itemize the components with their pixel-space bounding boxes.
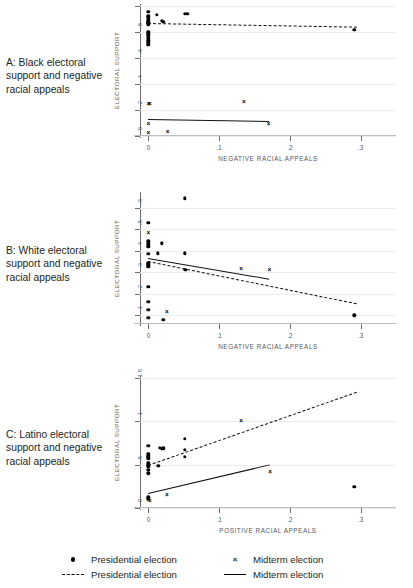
legend-item-midterm-line: Midterm election bbox=[222, 567, 323, 582]
data-point-presidential bbox=[353, 28, 356, 31]
data-point-presidential bbox=[157, 464, 160, 467]
x-axis-tick bbox=[148, 136, 149, 141]
y-axis-tick bbox=[135, 378, 140, 379]
data-point-presidential bbox=[183, 197, 186, 200]
data-point-midterm: × bbox=[268, 267, 272, 273]
y-axis-tick bbox=[135, 229, 140, 230]
panel-a-x-axis-label: NEGATIVE RACIAL APPEALS bbox=[140, 155, 396, 162]
legend-label: Presidential election bbox=[91, 569, 177, 580]
x-marker-icon: × bbox=[222, 556, 248, 564]
data-point-midterm: × bbox=[267, 121, 271, 127]
legend-label: Midterm election bbox=[253, 569, 323, 580]
gridline bbox=[140, 32, 396, 33]
trend-line-presidential bbox=[148, 391, 357, 465]
x-axis-tick-label: .2 bbox=[287, 144, 292, 151]
panel-b: B: White electoral support and negative … bbox=[0, 188, 413, 374]
panel-b-caption: B: White electoral support and negative … bbox=[6, 244, 110, 284]
x-axis-tick-label: 0 bbox=[147, 332, 151, 339]
data-point-midterm: × bbox=[165, 308, 169, 314]
y-axis-tick-label: .4 bbox=[137, 242, 143, 247]
panel-c-plot-area: ELECTORAL SUPPORT POSITIVE RACIAL APPEAL… bbox=[112, 376, 408, 536]
y-axis-tick-label: .8 bbox=[137, 23, 143, 28]
trend-line-midterm bbox=[148, 258, 269, 280]
x-axis-tick bbox=[361, 508, 362, 513]
gridline bbox=[140, 229, 396, 230]
y-axis-tick bbox=[135, 294, 140, 295]
x-axis-tick bbox=[219, 508, 220, 513]
trend-line-presidential bbox=[148, 261, 357, 304]
data-point-presidential bbox=[156, 252, 159, 255]
y-axis-tick-label: 0 bbox=[137, 127, 143, 130]
gridline bbox=[140, 110, 396, 111]
panel-c-y-axis-label: ELECTORAL SUPPORT bbox=[110, 376, 122, 508]
y-axis-tick bbox=[135, 58, 140, 59]
legend-item-presidential-line: Presidential election bbox=[60, 567, 177, 582]
y-axis-tick-label: .3 bbox=[137, 263, 143, 268]
y-axis-tick bbox=[135, 110, 140, 111]
y-axis-tick bbox=[135, 315, 140, 316]
x-axis-tick bbox=[290, 508, 291, 513]
y-axis-tick-label: .6 bbox=[137, 49, 143, 54]
data-point-presidential bbox=[183, 437, 186, 440]
legend-label: Presidential election bbox=[91, 554, 177, 565]
panel-b-plot-area: ELECTORAL SUPPORT NEGATIVE RACIAL APPEAL… bbox=[112, 192, 408, 352]
panel-b-x-axis-label: NEGATIVE RACIAL APPEALS bbox=[140, 343, 396, 350]
x-axis-tick-label: .2 bbox=[287, 332, 292, 339]
data-point-presidential bbox=[147, 245, 150, 248]
data-point-presidential bbox=[147, 444, 150, 447]
gridline bbox=[140, 378, 396, 379]
data-point-presidential bbox=[147, 10, 150, 13]
y-axis-tick bbox=[135, 508, 140, 509]
data-point-presidential bbox=[160, 242, 163, 245]
x-axis-tick-label: .1 bbox=[217, 144, 222, 151]
gridline bbox=[140, 294, 396, 295]
legend-column-left: Presidential election Presidential elect… bbox=[60, 552, 177, 582]
gridline bbox=[140, 58, 396, 59]
data-point-midterm: × bbox=[147, 262, 151, 268]
data-point-presidential bbox=[183, 455, 186, 458]
data-point-presidential bbox=[147, 308, 150, 311]
data-point-midterm: × bbox=[148, 101, 152, 107]
x-axis-tick bbox=[148, 324, 149, 329]
panel-c-y-axis-line bbox=[140, 376, 141, 510]
data-point-midterm: × bbox=[165, 492, 169, 498]
gridline bbox=[140, 6, 396, 7]
x-axis-tick bbox=[219, 324, 220, 329]
x-axis-tick bbox=[361, 136, 362, 141]
figure-racial-appeals: A: Black electoral support and negative … bbox=[0, 0, 413, 588]
y-axis-tick bbox=[135, 465, 140, 466]
y-axis-tick-label: .5 bbox=[137, 220, 143, 225]
x-axis-tick-label: .3 bbox=[358, 516, 363, 523]
figure-legend: Presidential election Presidential elect… bbox=[0, 552, 413, 588]
panel-a-plot-area: ELECTORAL SUPPORT NEGATIVE RACIAL APPEAL… bbox=[112, 4, 408, 164]
data-point-presidential bbox=[147, 221, 150, 224]
y-axis-tick-label: 1.5 bbox=[137, 369, 143, 377]
data-point-midterm: × bbox=[166, 129, 170, 135]
y-axis-tick bbox=[135, 6, 140, 7]
data-point-midterm: × bbox=[148, 497, 152, 503]
y-axis-tick bbox=[135, 32, 140, 33]
data-point-midterm: × bbox=[239, 265, 243, 271]
data-point-presidential bbox=[183, 252, 186, 255]
data-point-presidential bbox=[147, 252, 150, 255]
x-axis-tick bbox=[361, 324, 362, 329]
x-axis-tick-label: .3 bbox=[358, 144, 363, 151]
data-point-presidential bbox=[162, 318, 165, 321]
data-point-midterm: × bbox=[239, 418, 243, 424]
x-axis-tick-label: 0 bbox=[147, 144, 151, 151]
data-point-midterm: × bbox=[147, 230, 151, 236]
data-point-presidential bbox=[353, 314, 356, 317]
data-point-presidential bbox=[186, 12, 189, 15]
data-point-presidential bbox=[147, 285, 150, 288]
y-axis-tick-label: .4 bbox=[137, 75, 143, 80]
data-point-midterm: × bbox=[147, 121, 151, 127]
panel-c-caption: C: Latino electoral support and negative… bbox=[6, 428, 110, 468]
data-point-midterm: × bbox=[147, 130, 151, 136]
data-point-presidential bbox=[147, 316, 150, 319]
dot-marker-icon bbox=[60, 557, 86, 561]
x-axis-tick-label: .1 bbox=[217, 332, 222, 339]
y-axis-tick-label: .2 bbox=[137, 101, 143, 106]
x-axis-tick bbox=[290, 136, 291, 141]
trend-line-midterm bbox=[148, 119, 269, 122]
data-point-presidential bbox=[353, 485, 356, 488]
